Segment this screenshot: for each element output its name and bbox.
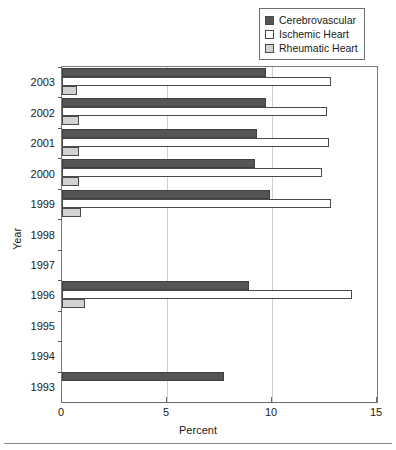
- x-axis-tick-10: [271, 397, 272, 403]
- y-axis-label-1994: 1994: [31, 350, 55, 362]
- y-axis-label-1993: 1993: [31, 381, 55, 393]
- footer-divider: [4, 443, 392, 444]
- bar-cerebrovascular-2003: [62, 68, 266, 77]
- chart-legend: Cerebrovascular Ischemic Heart Rheumatic…: [259, 8, 365, 60]
- y-axis-tick-1997: [58, 250, 62, 251]
- bar-ischemic-heart-2001: [62, 138, 329, 147]
- x-axis-label-0: 0: [58, 406, 64, 418]
- y-axis-tick-2002: [58, 97, 62, 98]
- bar-cerebrovascular-1999: [62, 190, 270, 199]
- bar-ischemic-heart-2002: [62, 107, 327, 116]
- legend-item-cerebrovascular: Cerebrovascular: [265, 13, 358, 27]
- y-axis-label-2000: 2000: [31, 168, 55, 180]
- plot-frame: 2003200220012000199919981997199619951994…: [61, 66, 378, 403]
- y-axis-label-2002: 2002: [31, 107, 55, 119]
- bar-ischemic-heart-1996: [62, 290, 352, 299]
- y-axis-tick-2003: [58, 67, 62, 68]
- bar-cerebrovascular-2000: [62, 159, 255, 168]
- bar-cerebrovascular-2001: [62, 129, 257, 138]
- bar-rheumatic-heart-1996: [62, 299, 85, 308]
- bar-ischemic-heart-2003: [62, 77, 331, 86]
- legend-label-cerebrovascular: Cerebrovascular: [279, 13, 356, 27]
- x-axis-tick-5: [166, 397, 167, 403]
- bar-ischemic-heart-1999: [62, 199, 331, 208]
- y-axis-label-1996: 1996: [31, 289, 55, 301]
- plot-area: [62, 67, 377, 402]
- y-axis-tick-1996: [58, 280, 62, 281]
- bar-rheumatic-heart-2003: [62, 86, 77, 95]
- legend-label-ischemic-heart: Ischemic Heart: [279, 27, 349, 41]
- bar-cerebrovascular-1996: [62, 281, 249, 290]
- legend-item-rheumatic-heart: Rheumatic Heart: [265, 41, 358, 55]
- bar-rheumatic-heart-1999: [62, 208, 81, 217]
- bar-cerebrovascular-1993: [62, 372, 224, 381]
- y-axis-label-1998: 1998: [31, 229, 55, 241]
- bar-rheumatic-heart-2001: [62, 147, 79, 156]
- x-axis-label-5: 5: [163, 406, 169, 418]
- bar-cerebrovascular-2002: [62, 98, 266, 107]
- bar-ischemic-heart-2000: [62, 168, 322, 177]
- y-axis-title: Year: [11, 228, 23, 250]
- y-axis-tick-1999: [58, 189, 62, 190]
- x-axis-tick-0: [61, 397, 62, 403]
- x-axis-label-15: 15: [370, 406, 382, 418]
- legend-swatch-rheumatic-heart: [265, 44, 274, 53]
- y-axis-tick-2000: [58, 158, 62, 159]
- x-axis-label-10: 10: [265, 406, 277, 418]
- bar-rheumatic-heart-2002: [62, 116, 79, 125]
- gridline-x-10: [272, 67, 273, 402]
- legend-swatch-cerebrovascular: [265, 16, 274, 25]
- legend-label-rheumatic-heart: Rheumatic Heart: [279, 41, 358, 55]
- gridline-x-5: [167, 67, 168, 402]
- y-axis-tick-1998: [58, 219, 62, 220]
- legend-item-ischemic-heart: Ischemic Heart: [265, 27, 358, 41]
- x-axis-tick-15: [376, 397, 377, 403]
- y-axis-label-1999: 1999: [31, 198, 55, 210]
- y-axis-tick-1994: [58, 341, 62, 342]
- legend-swatch-ischemic-heart: [265, 30, 274, 39]
- chart-figure: Cerebrovascular Ischemic Heart Rheumatic…: [0, 0, 396, 450]
- y-axis-label-2003: 2003: [31, 76, 55, 88]
- y-axis-tick-1995: [58, 311, 62, 312]
- y-axis-label-1997: 1997: [31, 259, 55, 271]
- y-axis-label-1995: 1995: [31, 320, 55, 332]
- x-axis-line: [61, 402, 377, 403]
- x-axis-title: Percent: [0, 424, 396, 436]
- y-axis-label-2001: 2001: [31, 137, 55, 149]
- y-axis-tick-2001: [58, 128, 62, 129]
- bar-rheumatic-heart-2000: [62, 177, 79, 186]
- y-axis-tick-1993: [58, 372, 62, 373]
